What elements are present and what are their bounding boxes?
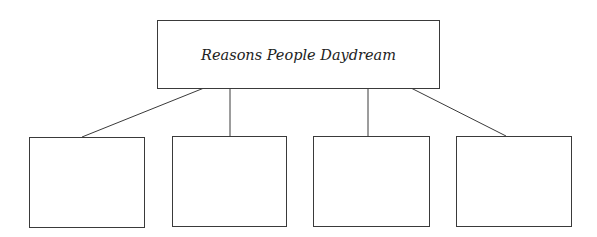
connector-1 [82,88,204,137]
root-node: Reasons People Daydream [157,20,440,89]
root-node-label: Reasons People Daydream [201,47,396,63]
diagram-canvas: Reasons People Daydream [0,0,597,237]
child-node-4 [456,136,572,227]
child-node-3 [313,136,430,227]
child-node-2 [172,136,287,227]
child-node-1 [29,137,145,228]
connector-4 [411,88,506,136]
